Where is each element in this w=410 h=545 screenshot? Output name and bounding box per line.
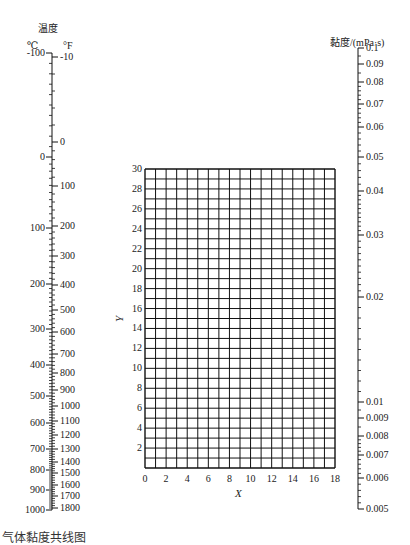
figure-caption: 气体黏度共线图 [2, 528, 86, 545]
